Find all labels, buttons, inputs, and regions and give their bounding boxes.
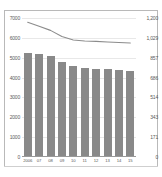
y-axis-right-tick-label: 857 <box>150 55 158 60</box>
x-axis-tick-label: 2006 <box>23 158 32 163</box>
x-axis-tick-label: 07 <box>37 158 41 163</box>
y-axis-left-tick-label: 1000 <box>10 135 20 140</box>
x-axis-tick-label: 10 <box>71 158 75 163</box>
x-axis-baseline <box>22 156 136 157</box>
y-axis-right-tick-label: 1,029 <box>146 35 158 40</box>
x-axis-tick-label: 15 <box>128 158 132 163</box>
plot-area <box>22 18 136 157</box>
chart-frame-top-border <box>4 10 158 11</box>
y-axis-right-tick-label: 343 <box>150 115 158 120</box>
x-axis-tick-label: 14 <box>117 158 121 163</box>
y-axis-left-tick-label: 0 <box>17 155 20 160</box>
y-axis-left-tick-label: 5000 <box>10 55 20 60</box>
y-axis-right-tick-label: 514 <box>150 95 158 100</box>
line-series <box>22 18 136 157</box>
y-axis-left-tick-label: 3000 <box>10 95 20 100</box>
y-axis-right-tick-label: 686 <box>150 75 158 80</box>
x-axis-tick-label: 12 <box>94 158 98 163</box>
line-series-path <box>28 22 131 43</box>
y-axis-left-tick-label: 7000 <box>10 16 20 21</box>
x-axis: 2006070809101112131415 <box>22 158 136 166</box>
y-axis-right-tick-label: 1,200 <box>146 16 158 21</box>
chart-frame-bottom-border <box>4 166 158 167</box>
x-axis-tick-label: 08 <box>48 158 52 163</box>
y-axis-right: 01713435146868571,0291,200 <box>138 18 160 157</box>
chart-container: 01000200030004000500060007000 0171343514… <box>0 0 162 177</box>
x-axis-tick-label: 09 <box>60 158 64 163</box>
y-axis-left-tick-label: 6000 <box>10 35 20 40</box>
x-axis-tick-label: 11 <box>83 158 87 163</box>
y-axis-left-tick-label: 4000 <box>10 75 20 80</box>
y-axis-right-tick-label: 171 <box>150 135 158 140</box>
x-axis-tick-label: 13 <box>105 158 109 163</box>
y-axis-left-tick-label: 2000 <box>10 115 20 120</box>
y-axis-right-tick-label: 0 <box>155 155 158 160</box>
y-axis-left: 01000200030004000500060007000 <box>0 18 20 157</box>
